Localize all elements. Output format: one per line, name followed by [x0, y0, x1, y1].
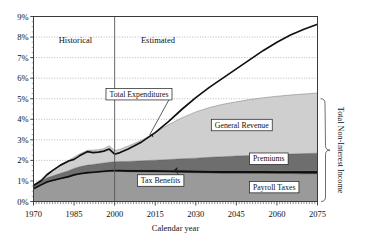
callout-label: Total Expenditures	[109, 90, 168, 99]
x-tick-label: 2030	[187, 209, 204, 219]
x-axis-title: Calendar year	[152, 223, 200, 233]
y-tick-label: 7%	[17, 53, 28, 63]
y-tick-label: 2%	[17, 155, 28, 165]
stacked-area-chart: 0%1%2%3%4%5%6%7%8%9%19701985200020152030…	[0, 0, 369, 245]
x-tick-label: 1985	[66, 209, 83, 219]
callout-label: Premiums	[253, 154, 285, 163]
chart-container: 0%1%2%3%4%5%6%7%8%9%19701985200020152030…	[0, 0, 369, 245]
y-tick-label: 6%	[17, 73, 28, 83]
y-tick-label: 1%	[17, 176, 28, 186]
x-axis: 19701985200020152030204520602075	[25, 202, 326, 219]
x-tick-label: 2075	[309, 209, 326, 219]
x-tick-label: 2015	[147, 209, 164, 219]
x-tick-label: 2060	[268, 209, 285, 219]
y-tick-label: 9%	[17, 12, 28, 22]
y-tick-label: 0%	[17, 197, 28, 207]
y-tick-label: 4%	[17, 114, 28, 124]
x-tick-label: 1970	[25, 209, 42, 219]
callout-label: Tax Benefits	[141, 176, 181, 185]
total-non-interest-income-brace	[321, 99, 331, 202]
right-brace-label: Total Non-Interest Income	[336, 107, 345, 194]
callout-label: Payroll Taxes	[253, 183, 295, 192]
y-axis: 0%1%2%3%4%5%6%7%8%9%	[17, 12, 33, 207]
callout-payroll-taxes: Payroll Taxes	[250, 181, 299, 193]
callout-general-revenue: General Revenue	[211, 119, 272, 130]
callout-premiums: Premiums	[250, 153, 289, 165]
x-tick-label: 2000	[106, 209, 123, 219]
era-label-estimated: Estimated	[141, 35, 176, 45]
x-tick-label: 2045	[228, 209, 245, 219]
y-tick-label: 3%	[17, 135, 28, 145]
y-tick-label: 8%	[17, 32, 28, 42]
y-tick-label: 5%	[17, 94, 28, 104]
era-label-historical: Historical	[59, 35, 93, 45]
callout-label: General Revenue	[215, 121, 269, 130]
